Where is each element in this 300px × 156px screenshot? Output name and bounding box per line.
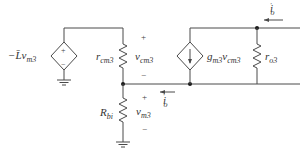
io-top-label: i′o <box>270 1 275 17</box>
resistor-ro3 <box>253 28 261 84</box>
circuit-diagram: + − −L̄vm3 rcm3 + vcm3 − Rbi + vm3 − i′o <box>0 0 300 156</box>
vcm3-label: vcm3 <box>135 50 153 65</box>
io-mid-label: i′o <box>163 92 168 109</box>
ground-icon <box>116 142 130 147</box>
rcm3-label: rcm3 <box>96 50 114 65</box>
gm3-label: gm3vcm3 <box>207 50 241 65</box>
left-source-label: −L̄vm3 <box>8 49 36 64</box>
current-arrow-top <box>264 18 283 22</box>
vcm3-minus: − <box>141 70 146 80</box>
vm3-plus: + <box>142 92 147 102</box>
vcm3-plus: + <box>141 32 146 42</box>
source-plus-sign: + <box>61 46 66 55</box>
vm3-minus: − <box>142 124 147 134</box>
vm3-label: vm3 <box>136 105 151 120</box>
ro3-label: ro3 <box>265 50 277 65</box>
resistor-rcm3 <box>119 28 127 84</box>
source-minus-sign: − <box>61 60 66 69</box>
resistor-rbi <box>116 84 130 147</box>
arrow-down-icon <box>188 59 192 64</box>
ground-icon <box>57 80 71 85</box>
rbi-label: Rbi <box>99 106 113 121</box>
